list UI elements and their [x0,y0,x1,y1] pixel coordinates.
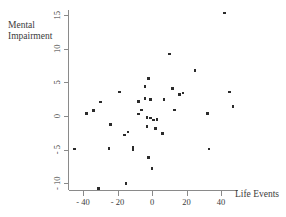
data-point [223,12,226,15]
data-point [123,134,126,137]
data-point [137,113,140,116]
data-point [151,167,154,170]
data-point [232,105,235,108]
data-point [228,91,231,94]
data-point [73,148,76,151]
plot-canvas: - 10- 5051015 - 40- 2002040 Mental Impai… [0,0,286,217]
y-axis-title-line1: Mental [8,20,35,30]
data-point [118,91,121,94]
x-axis-ticks: - 40- 2002040 [76,191,225,208]
data-points [73,12,234,190]
x-tick-label: - 40 [76,197,89,207]
data-point [168,53,171,56]
data-point [208,148,211,151]
data-point [161,132,164,135]
y-tick-label: 10 [52,45,62,54]
data-point [194,69,197,72]
y-tick-label: 5 [52,80,62,84]
data-point [108,147,111,150]
data-point [85,112,88,115]
data-point [147,156,150,159]
axes [69,10,239,191]
data-point [125,182,128,185]
data-point [132,148,135,151]
data-point [147,77,150,80]
x-tick-label: 0 [150,197,154,207]
y-axis-title-line2: Impairment [8,31,53,41]
data-point [206,112,209,115]
data-point [127,131,130,134]
y-tick-label: - 10 [52,176,62,189]
data-point [146,125,149,128]
data-point [156,118,159,121]
x-tick-label: - 20 [111,197,124,207]
data-point [109,123,112,126]
data-point [149,98,152,101]
x-axis-title: Life Events [235,189,279,199]
data-point [149,117,152,120]
data-point [99,101,102,104]
data-point [92,109,95,112]
data-point [178,93,181,96]
data-point [154,127,157,130]
data-point [182,92,185,95]
data-point [146,116,149,119]
data-point [171,87,174,90]
data-point [137,100,140,103]
data-point [144,85,147,88]
y-tick-label: 0 [52,114,62,118]
data-point [97,187,100,190]
y-tick-label: 15 [52,11,62,20]
y-tick-label: - 5 [52,145,62,154]
data-point [132,146,135,149]
x-tick-label: 40 [217,197,226,207]
data-point [163,98,166,101]
x-tick-label: 20 [182,197,191,207]
scatter-plot-figure: - 10- 5051015 - 40- 2002040 Mental Impai… [0,0,286,217]
data-point [173,109,176,112]
data-point [140,109,143,112]
data-point [144,97,147,100]
y-axis-ticks: - 10- 5051015 [52,11,69,190]
data-point [152,119,155,122]
